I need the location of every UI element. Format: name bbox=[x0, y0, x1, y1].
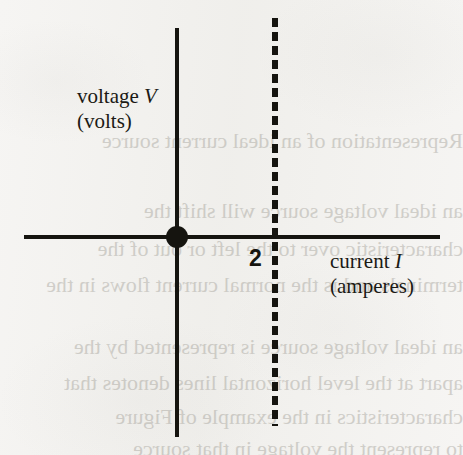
bleed-through-line: apart at the level horizontal lines deno… bbox=[0, 370, 463, 396]
bleed-through-line: Representation of an ideal current sourc… bbox=[0, 128, 463, 154]
current-axis-label: current I (amperes) bbox=[330, 249, 414, 299]
current-tick-label-2: 2 bbox=[249, 247, 262, 270]
figure-canvas: Representation of an ideal current sourc… bbox=[0, 0, 463, 455]
bleed-through-line: to represent the voltage in that source bbox=[0, 436, 463, 455]
paper-grain-texture bbox=[0, 0, 463, 455]
characteristic-dashed-line bbox=[272, 18, 278, 426]
bleed-through-line: characteristics in the example of Figure bbox=[0, 404, 463, 430]
origin-point-marker bbox=[166, 226, 188, 248]
voltage-axis-label-line1: voltage V bbox=[77, 84, 157, 109]
current-axis-label-line1: current I bbox=[330, 249, 414, 274]
bleed-through-line: an ideal voltage source will shift the bbox=[0, 198, 463, 224]
voltage-axis-label: voltage V (volts) bbox=[77, 84, 157, 134]
current-axis-symbol: I bbox=[395, 249, 402, 273]
current-axis-label-text: current bbox=[330, 249, 395, 273]
current-axis-line bbox=[24, 235, 440, 239]
bleed-through-line: an ideal voltage source is represented b… bbox=[0, 334, 463, 360]
voltage-axis-label-text: voltage bbox=[77, 84, 144, 108]
voltage-axis-unit: (volts) bbox=[77, 109, 157, 134]
current-axis-unit: (amperes) bbox=[330, 274, 414, 299]
voltage-axis-symbol: V bbox=[144, 84, 157, 108]
